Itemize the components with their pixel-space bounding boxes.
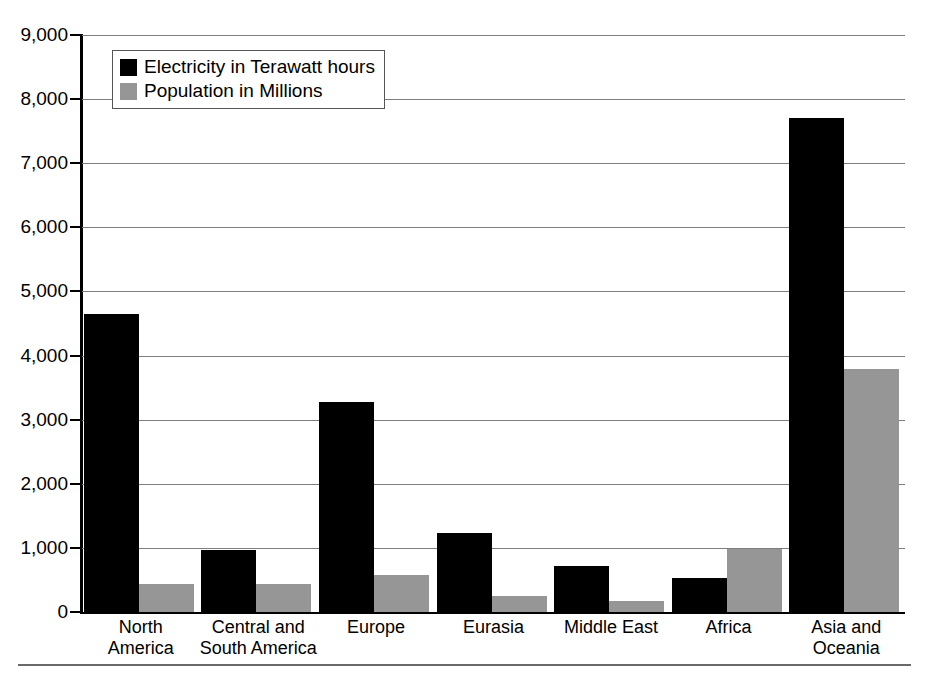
gridline: [82, 612, 905, 614]
y-axis-tick: [70, 162, 82, 164]
y-axis-tick-label: 4,000: [0, 346, 68, 365]
y-axis-tick-label: 7,000: [0, 153, 68, 172]
y-axis-tick: [70, 419, 82, 421]
y-axis-tick: [70, 611, 82, 613]
y-axis-tick: [70, 34, 82, 36]
y-axis-tick: [70, 226, 82, 228]
bar-population: [374, 575, 429, 612]
y-axis-tick-label: 3,000: [0, 410, 68, 429]
gray-square-swatch-icon: [120, 83, 137, 100]
y-axis-tick-label: 5,000: [0, 281, 68, 300]
legend-item-electricity: Electricity in Terawatt hours: [120, 55, 375, 79]
bar-population: [727, 549, 782, 612]
y-axis-tick: [70, 355, 82, 357]
bottom-divider: [18, 664, 911, 666]
y-axis-tick-label: 6,000: [0, 217, 68, 236]
y-axis-tick-label: 1,000: [0, 538, 68, 557]
bar-population: [256, 584, 311, 612]
bar-population: [844, 369, 899, 612]
legend-item-label: Electricity in Terawatt hours: [144, 57, 375, 77]
y-axis-tick-label: 0: [0, 602, 68, 621]
gridline: [82, 484, 905, 485]
bar-electricity: [554, 566, 609, 612]
bar-electricity: [319, 402, 374, 612]
bar-chart: 9,0008,0007,0006,0005,0004,0003,0002,000…: [0, 0, 927, 683]
bar-electricity: [201, 550, 256, 612]
bar-population: [492, 596, 547, 612]
gridline: [82, 356, 905, 357]
gridline: [82, 227, 905, 228]
gridline: [82, 35, 905, 36]
bar-electricity: [84, 314, 139, 612]
chart-legend: Electricity in Terawatt hours Population…: [112, 50, 385, 109]
legend-item-population: Population in Millions: [120, 79, 375, 103]
y-axis-tick: [70, 547, 82, 549]
gridline: [82, 420, 905, 421]
y-axis-tick-label: 9,000: [0, 25, 68, 44]
gridline: [82, 163, 905, 164]
legend-item-label: Population in Millions: [144, 81, 323, 101]
bar-electricity: [672, 578, 727, 612]
y-axis-tick-label: 2,000: [0, 474, 68, 493]
plot-area: [82, 35, 905, 612]
gridline: [82, 291, 905, 292]
y-axis-tick: [70, 98, 82, 100]
black-square-swatch-icon: [120, 59, 137, 76]
bar-electricity: [789, 118, 844, 612]
bar-population: [609, 601, 664, 612]
bar-electricity: [437, 533, 492, 612]
y-axis-tick: [70, 483, 82, 485]
x-axis-tick-label: Asia and Oceania: [777, 617, 915, 659]
y-axis-tick: [70, 290, 82, 292]
bar-population: [139, 584, 194, 612]
y-axis-tick-label: 8,000: [0, 89, 68, 108]
